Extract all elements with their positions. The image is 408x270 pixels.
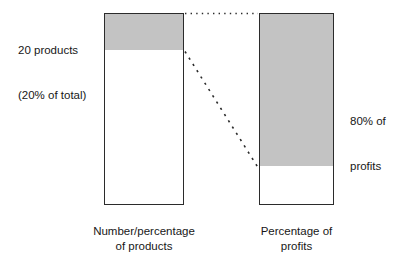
caption-profits-line-2: profits — [241, 239, 352, 254]
callout-profits-label: 80% of profits — [350, 84, 386, 204]
bar-segment-products-shaded — [105, 14, 183, 52]
bar-segment-products-unshaded — [105, 50, 183, 204]
bar-percentage-of-profits — [259, 13, 334, 205]
callout-profits-line-1: 80% of — [350, 114, 386, 129]
caption-products-line-1: Number/percentage — [54, 224, 234, 239]
caption-percentage-of-profits: Percentage of profits — [241, 224, 352, 254]
pareto-diagram: 20 products (20% of total) 80% of profit… — [0, 0, 408, 270]
caption-profits-line-1: Percentage of — [241, 224, 352, 239]
bar-number-percentage-of-products — [104, 13, 184, 205]
callout-products-label: 20 products (20% of total) — [18, 13, 86, 133]
caption-products-line-2: of products — [54, 239, 234, 254]
bar-segment-profits-unshaded — [260, 166, 333, 204]
callout-products-line-1: 20 products — [18, 43, 86, 58]
bar-segment-profits-shaded — [260, 14, 333, 168]
callout-profits-line-2: profits — [350, 159, 386, 174]
caption-number-percentage-of-products: Number/percentage of products — [54, 224, 234, 254]
callout-products-line-2: (20% of total) — [18, 88, 86, 103]
dashed-diagonal-connector-line — [185, 52, 258, 168]
